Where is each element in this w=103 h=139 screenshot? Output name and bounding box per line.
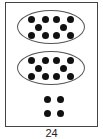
- number-caption: 24: [0, 128, 103, 139]
- dot: [35, 24, 42, 31]
- dot: [67, 73, 74, 80]
- dot: [42, 57, 49, 64]
- dot: [53, 16, 60, 23]
- dot: [42, 73, 49, 80]
- dot: [53, 73, 60, 80]
- group-of-ten-oval-2: [17, 51, 85, 85]
- dot: [67, 32, 74, 39]
- loose-dot: [44, 96, 51, 103]
- loose-dot: [44, 110, 51, 117]
- dot: [60, 65, 67, 72]
- dot: [28, 32, 35, 39]
- dot: [28, 57, 35, 64]
- dot: [60, 24, 67, 31]
- dot: [42, 32, 49, 39]
- loose-dot: [57, 110, 64, 117]
- dot: [67, 16, 74, 23]
- group-of-ten-oval-1: [17, 10, 85, 44]
- card-frame: [5, 2, 98, 127]
- dot: [28, 16, 35, 23]
- dot: [28, 73, 35, 80]
- dot: [67, 57, 74, 64]
- dot: [53, 32, 60, 39]
- dot: [42, 16, 49, 23]
- loose-dot: [57, 96, 64, 103]
- dot: [53, 57, 60, 64]
- dot: [35, 65, 42, 72]
